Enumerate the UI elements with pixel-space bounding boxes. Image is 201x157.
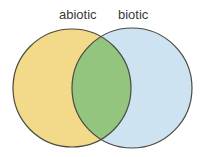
- label-abiotic: abiotic: [59, 7, 97, 22]
- label-biotic: biotic: [118, 7, 149, 22]
- venn-diagram: abiotic biotic: [0, 0, 201, 157]
- venn-svg: abiotic biotic: [0, 0, 201, 157]
